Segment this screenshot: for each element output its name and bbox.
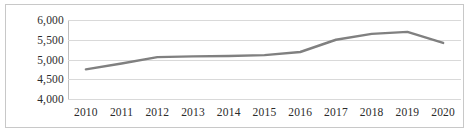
line-chart-figure: 4,0004,5005,0005,5006,000 20102011201220… xyxy=(5,4,464,128)
x-tick-label: 2020 xyxy=(431,105,455,119)
series-line-path xyxy=(86,32,443,70)
x-tick-label: 2014 xyxy=(217,105,241,119)
plot-area xyxy=(68,20,461,99)
y-tick-label: 5,000 xyxy=(6,54,64,65)
x-tick-label: 2018 xyxy=(360,105,384,119)
y-axis-tick-labels: 4,0004,5005,0005,5006,000 xyxy=(6,20,64,99)
x-tick-label: 2017 xyxy=(324,105,348,119)
x-axis-tick-labels: 2010201120122013201420152016201720182019… xyxy=(68,105,461,123)
series-line-group xyxy=(68,20,461,99)
x-tick-label: 2019 xyxy=(396,105,420,119)
x-tick-label: 2011 xyxy=(110,105,133,119)
y-tick-label: 6,000 xyxy=(6,15,64,26)
x-tick-label: 2010 xyxy=(74,105,98,119)
x-tick-label: 2016 xyxy=(288,105,312,119)
y-tick-label: 4,500 xyxy=(6,74,64,85)
y-tick-label: 5,500 xyxy=(6,34,64,45)
gridline-y-4000 xyxy=(68,99,461,100)
x-tick-label: 2015 xyxy=(253,105,277,119)
y-tick-label: 4,000 xyxy=(6,94,64,105)
x-tick-label: 2013 xyxy=(181,105,205,119)
x-tick-label: 2012 xyxy=(145,105,169,119)
